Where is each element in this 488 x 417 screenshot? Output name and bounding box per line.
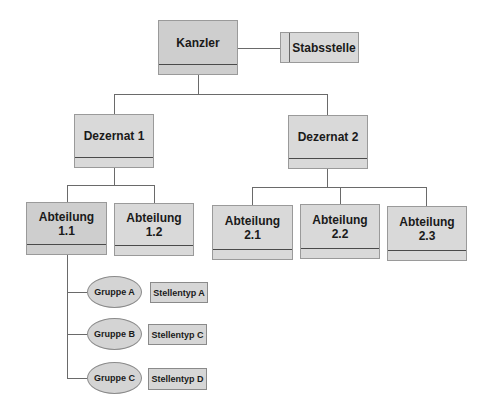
node-label: Abteilung 2.2 [301,205,379,248]
node-label-line2: 2.3 [419,229,436,243]
connector-to-abteilung-1-1 [67,185,68,202]
node-label-line1: Abteilung [225,214,280,228]
connector-dezernat-2-down [327,169,328,187]
node-label: Dezernat 2 [289,116,367,158]
node-divider [213,249,292,259]
node-stellentyp-d: Stellentyp D [148,368,207,390]
node-label-line1: Abteilung [126,211,181,225]
node-dezernat-2: Dezernat 2 [288,115,368,169]
node-label: Abteilung 2.3 [388,207,466,250]
node-kanzler: Kanzler [158,20,238,75]
node-divider [115,245,193,255]
node-stellentyp-a: Stellentyp A [150,282,208,303]
connector-kanzler-stabsstelle [238,48,280,49]
node-gruppe-a: Gruppe A [87,276,142,308]
org-chart: Kanzler Stabsstelle Dezernat 1 Dezernat … [0,0,488,417]
node-label: Abteilung 2.1 [213,206,292,249]
node-label: Abteilung 1.2 [115,204,193,245]
node-label-line2: 2.2 [332,227,349,241]
connector-to-abteilung-2-2 [340,187,341,204]
connector-to-dezernat-1 [114,94,115,114]
connector-abteilung-1-1-groups [67,255,68,379]
connector-kanzler-down [198,75,199,94]
connector-to-abteilung-1-2 [154,185,155,203]
node-divider [159,64,237,74]
node-dezernat-1: Dezernat 1 [74,114,154,168]
node-label-line2: 1.1 [58,224,75,238]
node-stabsstelle: Stabsstelle [280,32,359,63]
node-abteilung-2-2: Abteilung 2.2 [300,204,380,259]
connector-to-gruppe-a [67,292,87,293]
connector-to-gruppe-b [67,334,87,335]
connector-dezernat-1-down [114,168,115,185]
connector-abteilungen-1-bar [67,185,155,186]
node-label-line1: Abteilung [399,215,454,229]
node-label-line1: Abteilung [39,210,94,224]
connector-dezernate-bar [114,94,328,95]
node-label: Abteilung 1.1 [27,203,106,244]
node-label-line1: Abteilung [312,213,367,227]
node-divider [301,248,379,258]
node-label-line2: 2.1 [244,228,261,242]
node-abteilung-1-2: Abteilung 1.2 [114,203,194,256]
staff-marker [281,33,290,62]
node-divider [75,157,153,167]
connector-to-abteilung-2-1 [252,187,253,205]
node-label: Stabsstelle [290,33,358,62]
node-abteilung-2-1: Abteilung 2.1 [212,205,293,260]
connector-to-abteilung-2-3 [426,187,427,206]
connector-to-gruppe-c [67,378,87,379]
node-label: Dezernat 1 [75,115,153,157]
node-gruppe-b: Gruppe B [87,318,142,350]
node-divider [289,158,367,168]
node-divider [388,250,466,260]
node-stellentyp-c: Stellentyp C [148,324,207,345]
node-gruppe-c: Gruppe C [87,362,142,394]
connector-to-dezernat-2 [327,94,328,115]
node-label: Kanzler [159,21,237,64]
node-abteilung-1-1: Abteilung 1.1 [26,202,107,255]
node-divider [27,244,106,254]
node-abteilung-2-3: Abteilung 2.3 [387,206,467,261]
node-label-line2: 1.2 [146,225,163,239]
